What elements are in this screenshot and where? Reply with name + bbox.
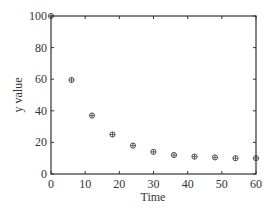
y-axis-label: y value [11, 78, 25, 113]
data-point [233, 156, 238, 161]
y-tick-label: 20 [35, 135, 47, 149]
x-tick-label: 10 [79, 177, 91, 191]
y-tick-label: 40 [35, 104, 47, 118]
data-point [212, 155, 217, 160]
data-point [130, 143, 135, 148]
data-point [171, 152, 176, 157]
x-tick-label: 20 [113, 177, 125, 191]
data-point [253, 156, 258, 161]
x-tick-label: 50 [216, 177, 228, 191]
y-tick-label: 60 [35, 72, 47, 86]
data-point [192, 154, 197, 159]
data-points [48, 13, 258, 160]
x-tick-label: 30 [148, 177, 160, 191]
x-tick-label: 0 [48, 177, 54, 191]
data-point [151, 149, 156, 154]
y-tick-label: 80 [35, 41, 47, 55]
y-tick-label: 100 [29, 9, 47, 23]
data-point [69, 77, 74, 82]
axis-ticks: 0102030405060020406080100 [29, 9, 262, 191]
x-tick-label: 60 [250, 177, 262, 191]
x-axis-label: Time [141, 190, 166, 204]
scatter-chart: 0102030405060020406080100 Time y value [0, 0, 273, 213]
data-point [110, 132, 115, 137]
y-tick-label: 0 [41, 167, 47, 181]
x-tick-label: 40 [182, 177, 194, 191]
data-point [89, 113, 94, 118]
data-point [48, 13, 53, 18]
